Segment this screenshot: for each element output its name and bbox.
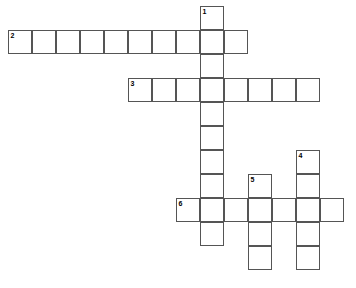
clue-number: 2 (11, 31, 15, 40)
crossword-cell[interactable] (248, 78, 272, 102)
crossword-cell[interactable]: 4 (296, 150, 320, 174)
crossword-cell[interactable] (224, 30, 248, 54)
crossword-cell[interactable] (296, 198, 320, 222)
crossword-cell[interactable]: 2 (8, 30, 32, 54)
crossword-cell[interactable] (200, 78, 224, 102)
crossword-cell[interactable] (56, 30, 80, 54)
crossword-cell[interactable] (296, 246, 320, 270)
clue-number: 1 (203, 7, 207, 16)
crossword-cell[interactable] (200, 54, 224, 78)
crossword-cell[interactable] (128, 30, 152, 54)
crossword-cell[interactable] (248, 246, 272, 270)
clue-number: 4 (299, 151, 303, 160)
crossword-grid: 123456 (0, 0, 356, 288)
crossword-cell[interactable] (296, 222, 320, 246)
clue-number: 5 (251, 175, 255, 184)
crossword-cell[interactable] (200, 102, 224, 126)
crossword-cell[interactable] (32, 30, 56, 54)
crossword-cell[interactable]: 1 (200, 6, 224, 30)
crossword-cell[interactable] (224, 78, 248, 102)
crossword-cell[interactable] (200, 150, 224, 174)
crossword-cell[interactable] (272, 78, 296, 102)
crossword-cell[interactable] (200, 126, 224, 150)
clue-number: 3 (131, 79, 135, 88)
crossword-cell[interactable] (248, 198, 272, 222)
crossword-cell[interactable]: 5 (248, 174, 272, 198)
crossword-cell[interactable] (80, 30, 104, 54)
crossword-cell[interactable] (224, 198, 248, 222)
crossword-cell[interactable]: 6 (176, 198, 200, 222)
crossword-cell[interactable] (176, 30, 200, 54)
crossword-cell[interactable] (272, 198, 296, 222)
clue-number: 6 (179, 199, 183, 208)
crossword-cell[interactable] (104, 30, 128, 54)
crossword-cell[interactable] (200, 222, 224, 246)
crossword-cell[interactable] (248, 222, 272, 246)
crossword-cell[interactable] (320, 198, 344, 222)
crossword-cell[interactable] (200, 198, 224, 222)
crossword-cell[interactable] (296, 78, 320, 102)
crossword-cell[interactable] (152, 30, 176, 54)
crossword-cell[interactable] (296, 174, 320, 198)
crossword-cell[interactable] (176, 78, 200, 102)
crossword-cell[interactable] (200, 174, 224, 198)
crossword-cell[interactable] (200, 30, 224, 54)
crossword-cell[interactable]: 3 (128, 78, 152, 102)
crossword-cell[interactable] (152, 78, 176, 102)
